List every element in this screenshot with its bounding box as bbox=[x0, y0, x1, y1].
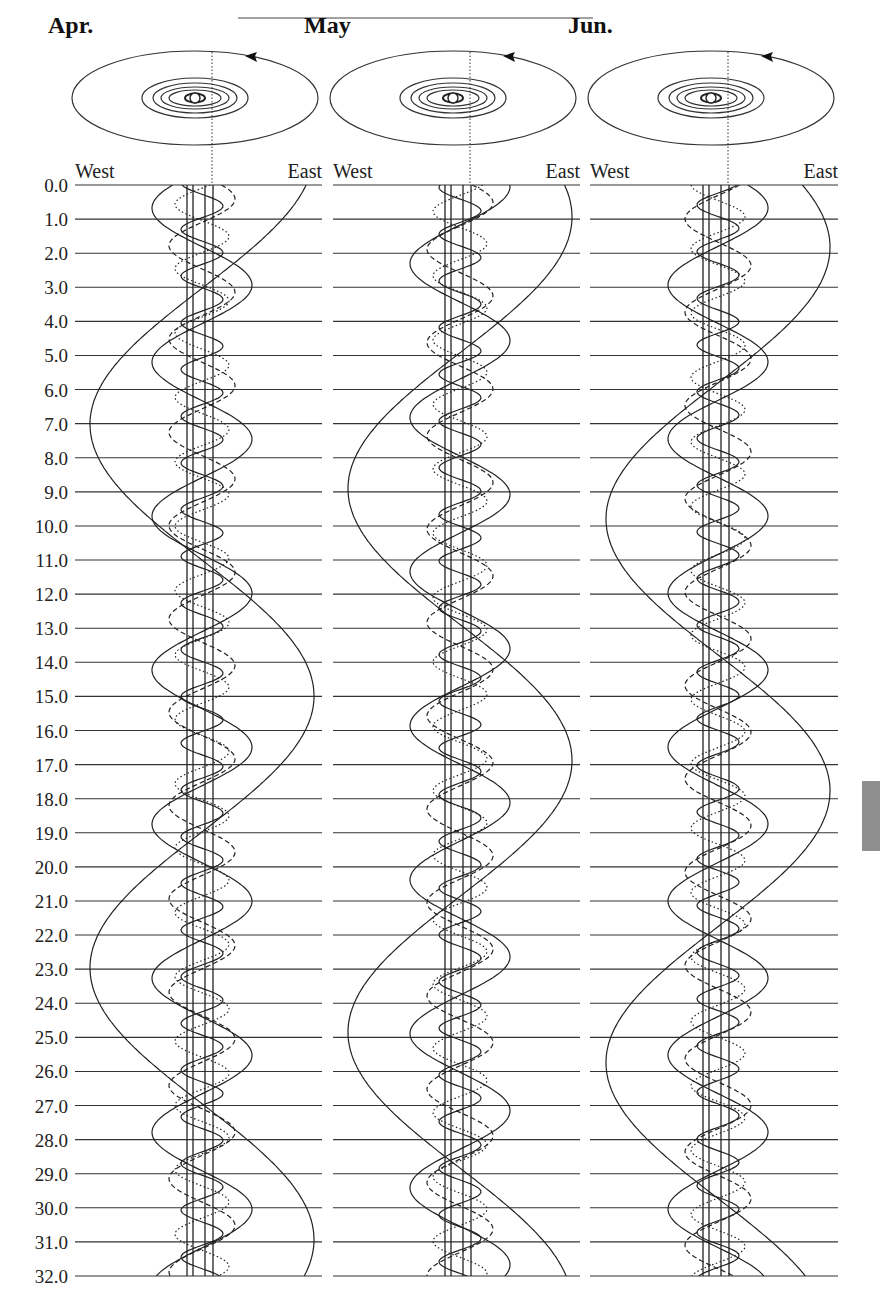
day-label: 11.0 bbox=[35, 550, 68, 571]
day-label: 9.0 bbox=[44, 482, 68, 503]
east-label: East bbox=[288, 160, 323, 182]
month-title: Jun. bbox=[568, 12, 613, 38]
day-label: 32.0 bbox=[35, 1266, 68, 1287]
panel-0: Apr.WestEast bbox=[48, 12, 322, 1276]
orbit-diagram bbox=[330, 51, 576, 145]
day-label: 25.0 bbox=[35, 1027, 68, 1048]
west-label: West bbox=[333, 160, 373, 182]
orbit-direction-arrow-icon bbox=[761, 52, 773, 62]
month-title: May bbox=[304, 12, 351, 38]
day-label: 6.0 bbox=[44, 380, 68, 401]
day-label: 13.0 bbox=[35, 618, 68, 639]
day-label: 10.0 bbox=[35, 516, 68, 537]
day-label: 0.0 bbox=[44, 175, 68, 196]
satellite-chart: Apr.WestEastMayWestEastJun.WestEast 0.01… bbox=[0, 0, 880, 1302]
orbit-direction-arrow-icon bbox=[245, 52, 257, 62]
day-label: 18.0 bbox=[35, 789, 68, 810]
day-label: 26.0 bbox=[35, 1061, 68, 1082]
west-label: West bbox=[590, 160, 630, 182]
day-label: 15.0 bbox=[35, 686, 68, 707]
day-label: 30.0 bbox=[35, 1198, 68, 1219]
day-label: 31.0 bbox=[35, 1232, 68, 1253]
day-label: 21.0 bbox=[35, 891, 68, 912]
day-label: 7.0 bbox=[44, 414, 68, 435]
east-label: East bbox=[804, 160, 839, 182]
day-label: 20.0 bbox=[35, 857, 68, 878]
panel-1: MayWestEast bbox=[304, 12, 580, 1276]
day-label: 23.0 bbox=[35, 959, 68, 980]
orbit-diagram bbox=[72, 51, 318, 145]
day-label: 19.0 bbox=[35, 823, 68, 844]
day-label: 16.0 bbox=[35, 721, 68, 742]
day-label: 12.0 bbox=[35, 584, 68, 605]
day-label: 27.0 bbox=[35, 1096, 68, 1117]
day-label: 4.0 bbox=[44, 311, 68, 332]
orbit-direction-arrow-icon bbox=[503, 52, 515, 62]
orbit-diagram bbox=[588, 51, 834, 145]
month-panels: Apr.WestEastMayWestEastJun.WestEast bbox=[48, 12, 838, 1276]
day-label: 28.0 bbox=[35, 1130, 68, 1151]
month-title: Apr. bbox=[48, 12, 93, 38]
day-label: 24.0 bbox=[35, 993, 68, 1014]
day-label: 8.0 bbox=[44, 448, 68, 469]
day-label: 14.0 bbox=[35, 652, 68, 673]
day-label: 5.0 bbox=[44, 345, 68, 366]
east-label: East bbox=[546, 160, 581, 182]
day-label: 17.0 bbox=[35, 755, 68, 776]
day-label: 22.0 bbox=[35, 925, 68, 946]
panel-2: Jun.WestEast bbox=[568, 12, 838, 1276]
day-axis-labels: 0.01.02.03.04.05.06.07.08.09.010.011.012… bbox=[35, 175, 68, 1287]
page-edge-tab bbox=[862, 781, 880, 851]
day-label: 1.0 bbox=[44, 209, 68, 230]
day-label: 2.0 bbox=[44, 243, 68, 264]
west-label: West bbox=[75, 160, 115, 182]
day-label: 29.0 bbox=[35, 1164, 68, 1185]
day-label: 3.0 bbox=[44, 277, 68, 298]
